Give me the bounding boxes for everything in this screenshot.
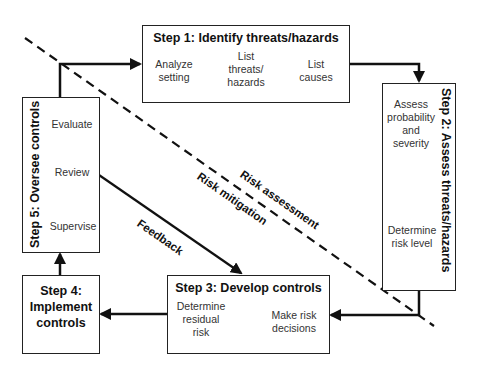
- step5-item-evaluate: Evaluate: [47, 118, 97, 131]
- step4-title: Step 4: Implement controls: [23, 283, 99, 331]
- arrow-step1-to-step2: [349, 64, 419, 81]
- risk-management-cycle-diagram: Step 1: Identify threats/hazards Analyze…: [0, 0, 479, 375]
- step3-item-make-risk-decisions: Make risk decisions: [264, 309, 324, 335]
- step5-box: Step 5: Oversee controls Evaluate Review…: [22, 97, 100, 253]
- step1-item-list-threats: List threats/ hazards: [221, 50, 271, 89]
- step2-item-determine-risk-level: Determine risk level: [385, 224, 439, 250]
- step3-title: Step 3: Develop controls: [168, 281, 329, 295]
- step5-title: Step 5: Oversee controls: [28, 101, 42, 248]
- arrow-step2-to-step3: [331, 290, 419, 315]
- step1-title: Step 1: Identify threats/hazards: [143, 31, 349, 45]
- step1-item-list-causes: List causes: [291, 58, 341, 84]
- step2-title: Step 2: Assess threats/hazards: [439, 88, 453, 272]
- step2-box: Assess probability and severity Determin…: [382, 83, 456, 291]
- step4-box: Step 4: Implement controls: [22, 275, 100, 354]
- step2-item-assess-probability: Assess probability and severity: [385, 98, 437, 150]
- step1-box: Step 1: Identify threats/hazards Analyze…: [142, 25, 350, 103]
- step5-item-supervise: Supervise: [47, 220, 99, 233]
- step1-item-analyze-setting: Analyze setting: [149, 58, 199, 84]
- step3-box: Step 3: Develop controls Determine resid…: [167, 275, 330, 354]
- step3-item-determine-residual-risk: Determine residual risk: [172, 300, 230, 339]
- step5-item-review: Review: [47, 166, 97, 179]
